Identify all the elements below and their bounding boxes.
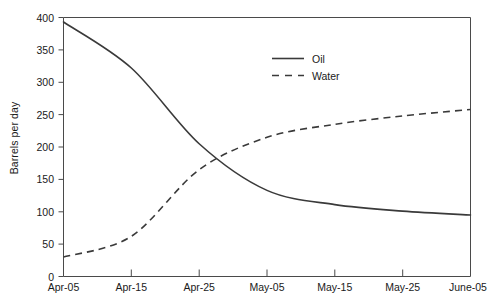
x-tick-label-may-25: May-25 [385,281,420,293]
y-tick-label-400: 400 [36,12,54,24]
series-line-oil [64,22,471,215]
x-axis-tick-labels: Apr-05 Apr-15 Apr-25 May-05 May-15 May-2… [48,281,487,293]
y-tick-label-200: 200 [36,141,54,153]
plot-frame [64,18,471,277]
x-tick-label-apr-05: Apr-05 [48,281,80,293]
x-axis-ticks [131,270,402,277]
y-tick-label-100: 100 [36,206,54,218]
x-tick-label-may-05: May-05 [249,281,284,293]
x-tick-label-june-05: June-05 [449,281,487,293]
series-line-water [64,109,471,257]
line-chart: Barrels per day 400 350 300 250 200 150 [0,0,496,304]
data-series [64,22,471,257]
y-tick-label-50: 50 [42,238,54,250]
y-tick-label-250: 250 [36,109,54,121]
chart-svg: 400 350 300 250 200 150 100 50 0 Apr-05 … [0,0,496,304]
x-tick-label-apr-25: Apr-25 [183,281,215,293]
plot-border [64,18,471,277]
x-tick-label-apr-15: Apr-15 [116,281,148,293]
x-tick-label-may-15: May-15 [317,281,352,293]
y-tick-label-350: 350 [36,44,54,56]
legend-label-oil: Oil [312,53,325,65]
y-axis-tick-labels: 400 350 300 250 200 150 100 50 0 [36,12,54,283]
y-axis-ticks [59,18,64,277]
legend-label-water: Water [312,70,340,82]
y-tick-label-300: 300 [36,76,54,88]
chart-legend: Oil Water [272,53,340,82]
y-tick-label-150: 150 [36,173,54,185]
